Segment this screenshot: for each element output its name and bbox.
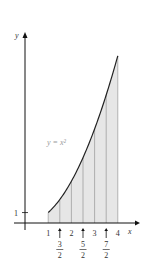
x-ticks: 1322523724 [46,228,120,260]
x-tick-numerator: 7 [104,240,108,249]
x-tick-arrow-icon [58,228,62,231]
curve-label: y = x² [46,138,67,147]
x-tick-numerator: 3 [58,240,62,249]
y-ticks: 1 [14,209,28,218]
riemann-sum-chart: x y y = x² 1 1322523724 [0,0,143,271]
x-axis-label: x [127,227,132,236]
x-tick-label: 4 [116,229,120,238]
x-tick-denominator: 2 [104,251,108,260]
x-axis-arrow-icon [135,221,140,226]
y-axis-arrow-icon [23,32,28,38]
x-tick-label: 3 [93,229,97,238]
x-tick-denominator: 2 [58,251,62,260]
x-tick-denominator: 2 [81,251,85,260]
x-tick-arrow-icon [81,228,85,231]
y-tick-label: 1 [14,209,18,218]
x-tick-arrow-icon [104,228,108,231]
x-tick-label: 2 [69,229,73,238]
x-tick-label: 1 [46,229,50,238]
y-axis-label: y [14,31,19,40]
x-tick-numerator: 5 [81,240,85,249]
